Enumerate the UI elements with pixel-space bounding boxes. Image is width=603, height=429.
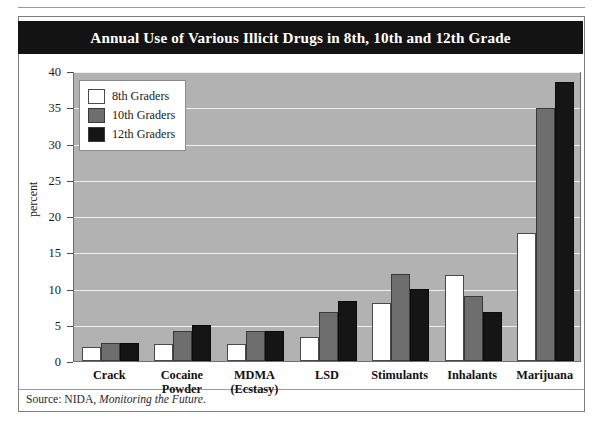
bar [154, 344, 173, 361]
legend-label: 12th Graders [112, 127, 175, 142]
legend-label: 10th Graders [112, 108, 175, 123]
bar [445, 275, 464, 361]
bar [483, 312, 502, 361]
y-axis-tick [67, 362, 73, 363]
x-axis-category-line: MDMA [218, 368, 291, 382]
page-title: Annual Use of Various Illicit Drugs in 8… [90, 29, 510, 47]
source-prefix: Source: NIDA, [26, 393, 99, 406]
bar [101, 343, 120, 361]
x-axis-category-line: Marijuana [508, 368, 581, 382]
y-axis-tick [67, 290, 73, 291]
source-divider [19, 389, 584, 390]
bar [300, 337, 319, 361]
bar [517, 233, 536, 361]
bar [246, 331, 265, 361]
bar-group [227, 73, 284, 361]
x-axis-category-label: CocainePowder [146, 368, 219, 396]
x-axis-category-line: Inhalants [436, 368, 509, 382]
y-axis-tick [67, 326, 73, 327]
y-axis-tick-label: 40 [21, 65, 61, 80]
y-axis-tick [67, 72, 73, 73]
bar-group [372, 73, 429, 361]
bar [372, 303, 391, 361]
x-axis-category-line: Stimulants [363, 368, 436, 382]
bar [555, 82, 574, 361]
bar [391, 274, 410, 361]
bar [173, 331, 192, 361]
y-axis-tick [67, 181, 73, 182]
bar [338, 301, 357, 361]
bar [410, 289, 429, 362]
x-axis-category-line: Powder [146, 382, 219, 396]
x-axis-category-label: MDMA(Ecstasy) [218, 368, 291, 396]
chart-title-bar: Annual Use of Various Illicit Drugs in 8… [18, 21, 583, 54]
top-divider [18, 7, 585, 8]
y-axis-tick-label: 15 [21, 246, 61, 261]
y-axis-tick [67, 217, 73, 218]
legend-item: 12th Graders [88, 125, 178, 144]
bar-group [300, 73, 357, 361]
bar-group [445, 73, 502, 361]
bar [192, 325, 211, 361]
legend-label: 8th Graders [112, 89, 169, 104]
x-axis-category-line: LSD [291, 368, 364, 382]
y-axis-tick-label: 10 [21, 282, 61, 297]
bar [319, 312, 338, 361]
chart-legend: 8th Graders10th Graders12th Graders [79, 80, 186, 151]
bar [464, 296, 483, 361]
legend-swatch [88, 108, 105, 123]
legend-swatch [88, 89, 105, 104]
y-axis-tick-label: 5 [21, 318, 61, 333]
bar [82, 347, 101, 362]
bar [536, 108, 555, 361]
chart-page: Annual Use of Various Illicit Drugs in 8… [0, 0, 603, 429]
y-axis-tick-label: 0 [21, 355, 61, 370]
bar [265, 331, 284, 361]
x-axis-category-label: Stimulants [363, 368, 436, 382]
legend-item: 8th Graders [88, 87, 178, 106]
x-axis-category-label: LSD [291, 368, 364, 382]
legend-swatch [88, 127, 105, 142]
bar-group [517, 73, 574, 361]
y-axis-tick [67, 108, 73, 109]
x-axis-category-label: Inhalants [436, 368, 509, 382]
y-axis-tick-label: 35 [21, 101, 61, 116]
bar [120, 343, 139, 361]
y-axis-tick-label: 20 [21, 210, 61, 225]
y-axis-tick [67, 145, 73, 146]
y-axis-tick-label: 25 [21, 173, 61, 188]
y-axis-tick-label: 30 [21, 137, 61, 152]
bar [227, 344, 246, 361]
x-axis-category-label: Marijuana [508, 368, 581, 382]
y-axis-tick [67, 253, 73, 254]
legend-item: 10th Graders [88, 106, 178, 125]
x-axis-category-label: Crack [73, 368, 146, 382]
x-axis-category-line: Crack [73, 368, 146, 382]
x-axis-category-line: Cocaine [146, 368, 219, 382]
x-axis-category-line: (Ecstasy) [218, 382, 291, 396]
